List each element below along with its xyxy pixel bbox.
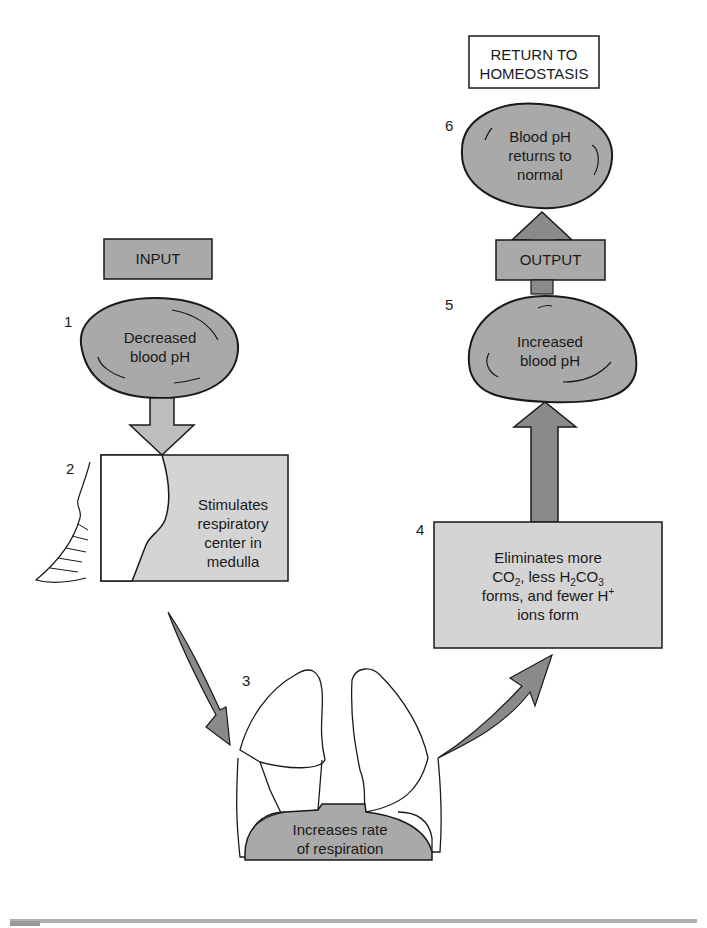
step-2-line1: Stimulates — [178, 495, 288, 514]
step-5-line2: blood pH — [490, 351, 610, 370]
step-3-line1: Increases rate — [260, 820, 420, 839]
homeostasis-label-line2: HOMEOSTASIS — [469, 64, 599, 83]
step-4-line2: CO2, less H2CO3 — [434, 567, 662, 586]
step-2-line4: medulla — [178, 552, 288, 571]
step-6-line1: Blood pH — [480, 127, 600, 146]
arrow-to-step-4 — [438, 655, 552, 758]
step-2-line2: respiratory — [178, 514, 288, 533]
step-5-text: Increased blood pH — [490, 332, 610, 370]
diagram-canvas — [0, 0, 707, 928]
input-label: INPUT — [104, 249, 212, 268]
bottom-divider-tab — [10, 921, 40, 926]
step-4-line4: ions form — [434, 605, 662, 624]
step-number-5: 5 — [445, 296, 453, 313]
step-6-text: Blood pH returns to normal — [480, 127, 600, 184]
step-2-line3: center in — [178, 533, 288, 552]
left-lung — [240, 670, 325, 768]
step-number-1: 1 — [64, 313, 72, 330]
step-6-line3: normal — [480, 165, 600, 184]
step-4-line1: Eliminates more — [434, 548, 662, 567]
arrow-to-step-2 — [130, 398, 194, 455]
return-to-label-line1: RETURN TO — [469, 45, 599, 64]
step-number-6: 6 — [445, 117, 453, 134]
step-1-line2: blood pH — [100, 347, 220, 366]
step-number-3: 3 — [242, 672, 250, 689]
return-to-homeostasis-label: RETURN TO HOMEOSTASIS — [469, 45, 599, 83]
step-4-text: Eliminates more CO2, less H2CO3 forms, a… — [434, 548, 662, 624]
step-5-line1: Increased — [490, 332, 610, 351]
step-1-text: Decreased blood pH — [100, 328, 220, 366]
output-label: OUTPUT — [496, 250, 605, 269]
step-4-line3: forms, and fewer H+ — [434, 586, 662, 605]
step-1-line1: Decreased — [100, 328, 220, 347]
bottom-divider-bar — [10, 919, 697, 923]
step-6-line2: returns to — [480, 146, 600, 165]
brainstem-sketch — [36, 462, 90, 582]
step-number-2: 2 — [66, 460, 74, 477]
step-3-line2: of respiration — [260, 839, 420, 858]
step-2-text: Stimulates respiratory center in medulla — [178, 495, 288, 571]
right-lung — [352, 669, 428, 812]
step-3-text: Increases rate of respiration — [260, 820, 420, 858]
arrow-to-step-5 — [514, 402, 576, 522]
step-number-4: 4 — [416, 521, 424, 538]
arrow-to-step-3 — [168, 612, 230, 745]
